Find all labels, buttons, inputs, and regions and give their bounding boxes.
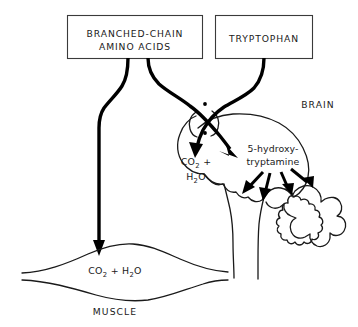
muscle-h2o-tail: O: [134, 265, 142, 276]
bcaa-box-label-line1: BRANCHED-CHAIN: [87, 28, 184, 39]
tryptophan-box[interactable]: TRYPTOPHAN: [216, 16, 313, 59]
serotonin-label-line2: tryptamine: [247, 156, 300, 167]
brain-region-label: BRAIN: [301, 99, 335, 110]
brain-co2-line1: CO2 +: [181, 156, 212, 170]
muscle-lower-border: [22, 280, 228, 301]
brain-co2-plus: +: [200, 156, 211, 167]
tryptophan-box-label: TRYPTOPHAN: [228, 33, 299, 44]
transport-dot-upper: [203, 102, 207, 106]
brain-ventral-notch: [204, 174, 223, 185]
brain-h2o-main: H: [186, 171, 193, 182]
muscle-co2-mid: + H: [107, 265, 129, 276]
muscle-region-label: MUSCLE: [93, 306, 137, 317]
brain-h2o-tail: O: [198, 171, 206, 182]
bcaa-box-label-line2: AMINO ACIDS: [99, 41, 171, 52]
cerebellum-outline: [276, 189, 322, 245]
serotonin-label-line1: 5-hydroxy-: [247, 143, 298, 154]
muscle-co2-h2o-label: CO2 + H2O: [88, 265, 142, 279]
brainstem-right-edge: [258, 197, 264, 279]
brain-co2-main: CO: [181, 156, 196, 167]
flow-bcaa-to-muscle: [93, 58, 128, 256]
figure-container: BRANCHED-CHAIN AMINO ACIDS TRYPTOPHAN: [0, 0, 358, 327]
serotonin-projection-arrows: [242, 169, 314, 201]
brain-co2-h2o-label: CO2 + H2O: [181, 156, 212, 185]
muscle-co2-main: CO: [88, 265, 103, 276]
flow-tryptophan-to-brain-path: [197, 58, 264, 147]
branched-chain-amino-acids-box[interactable]: BRANCHED-CHAIN AMINO ACIDS: [68, 16, 203, 59]
brain-outline-group: [178, 114, 346, 279]
flow-bcaa-to-brain-path: [148, 58, 230, 149]
brainstem-left-edge: [224, 184, 234, 278]
flow-bcaa-to-muscle-path: [99, 58, 128, 243]
serotonin-projection-2-arrowhead: [259, 187, 271, 201]
metabolism-diagram: BRANCHED-CHAIN AMINO ACIDS TRYPTOPHAN: [0, 0, 358, 327]
serotonin-label: 5-hydroxy- tryptamine: [247, 143, 300, 167]
